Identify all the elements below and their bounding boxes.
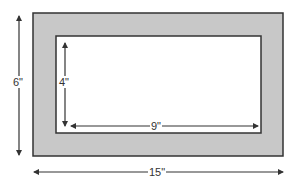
- inner-picture: [56, 36, 261, 133]
- outer-width-label: 15": [148, 166, 166, 178]
- outer-height-label: 6": [12, 76, 24, 88]
- inner-height-label: 4": [58, 76, 70, 88]
- diagram-canvas: [0, 0, 297, 183]
- inner-width-label: 9": [150, 120, 162, 132]
